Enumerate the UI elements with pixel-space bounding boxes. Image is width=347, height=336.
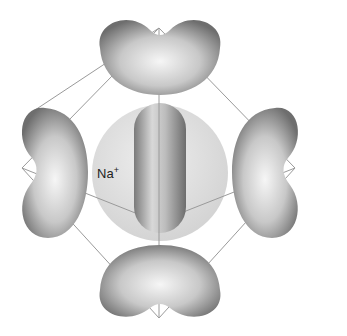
ion-label: Na+ bbox=[97, 165, 119, 181]
diagram-canvas bbox=[0, 0, 347, 336]
ion-charge: + bbox=[114, 165, 119, 175]
water-lobe-top bbox=[100, 20, 221, 95]
ion-symbol: Na bbox=[97, 166, 114, 181]
water-lobe-front bbox=[134, 103, 186, 233]
water-lobe-bottom bbox=[100, 245, 221, 317]
octahedral-diagram: Na+ bbox=[0, 0, 347, 336]
water-lobe-right bbox=[232, 108, 298, 238]
water-lobe-left bbox=[22, 108, 88, 238]
